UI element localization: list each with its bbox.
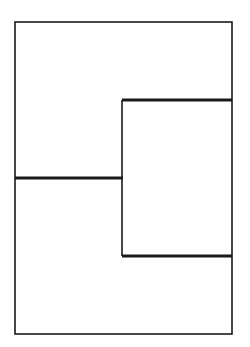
line-figure (0, 0, 250, 347)
figure-canvas (0, 0, 250, 347)
